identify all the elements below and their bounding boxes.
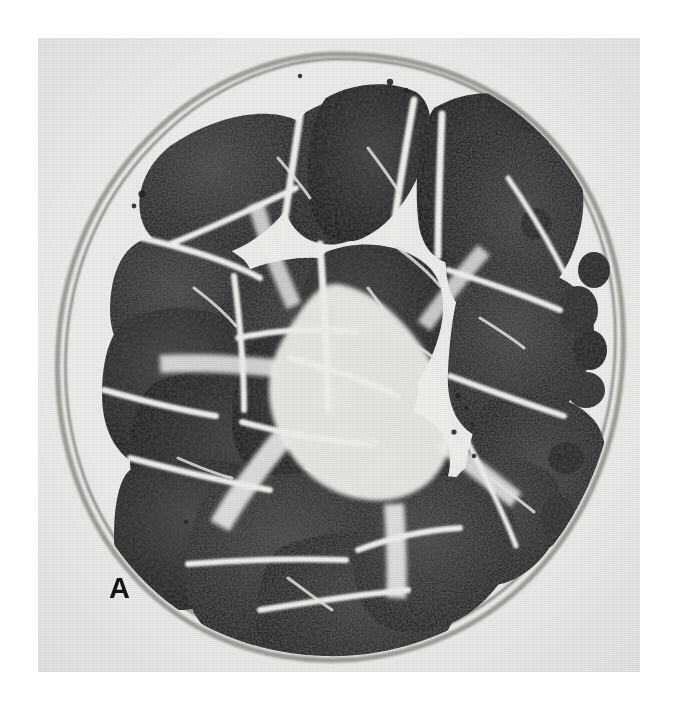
figure-panel-label: A: [109, 574, 130, 603]
figure-root: A: [0, 0, 676, 713]
